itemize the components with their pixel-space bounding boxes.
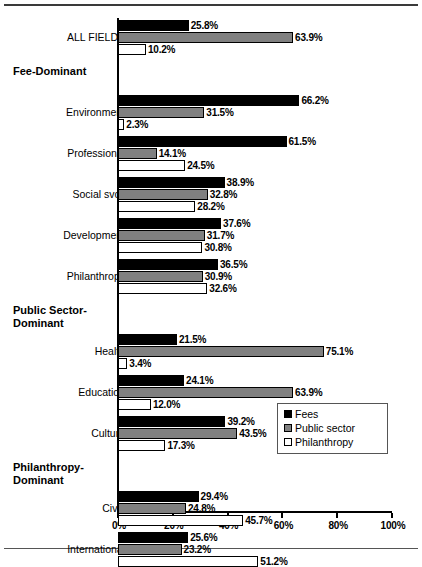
bar-value-label: 45.7%	[245, 515, 272, 526]
legend-swatch-fees-icon	[284, 410, 292, 418]
bar-public	[118, 230, 205, 241]
bar-value-label: 17.3%	[167, 440, 194, 451]
bar-public	[118, 107, 204, 118]
bar-public	[118, 148, 157, 159]
bar-value-label: 12.0%	[153, 399, 180, 410]
bar-fees	[118, 491, 199, 502]
chart-group: Civic29.4%24.8%45.7%	[0, 491, 422, 526]
bar-fees	[118, 375, 184, 386]
category-label: Development	[10, 229, 125, 241]
bar-value-label: 37.6%	[223, 218, 250, 229]
bar-philan	[118, 119, 124, 130]
bar-value-label: 28.2%	[197, 201, 224, 212]
bar-value-label: 14.1%	[159, 148, 186, 159]
bar-value-label: 66.2%	[301, 95, 328, 106]
chart-group: ALL FIELDS25.8%63.9%10.2%	[0, 20, 422, 55]
chart-group: Environment66.2%31.5%2.3%	[0, 95, 422, 130]
bar-value-label: 61.5%	[289, 136, 316, 147]
bar-value-label: 23.2%	[184, 544, 211, 555]
bar-public	[118, 189, 208, 200]
bar-philan	[118, 515, 243, 526]
bar-value-label: 25.8%	[191, 20, 218, 31]
bar-fees	[118, 218, 221, 229]
bar-value-label: 38.9%	[227, 177, 254, 188]
bar-value-label: 30.8%	[204, 242, 231, 253]
legend-swatch-philanthropy-icon	[284, 438, 292, 446]
bar-public	[118, 387, 293, 398]
legend-item-philanthropy: Philanthropy	[284, 435, 383, 449]
chart-group: Development37.6%31.7%30.8%	[0, 218, 422, 253]
bar-value-label: 10.2%	[148, 44, 175, 55]
bar-value-label: 30.9%	[205, 271, 232, 282]
bar-value-label: 24.1%	[186, 375, 213, 386]
bar-value-label: 63.9%	[295, 32, 322, 43]
legend-label-fees: Fees	[295, 407, 318, 421]
bar-value-label: 51.2%	[260, 556, 287, 567]
bar-public	[118, 32, 293, 43]
top-divider-rule	[4, 4, 418, 6]
legend-label-public-sector: Public sector	[295, 421, 355, 435]
bar-value-label: 25.6%	[190, 532, 217, 543]
category-label: Culture	[10, 427, 125, 439]
category-label: Civic	[10, 502, 125, 514]
chart-group: Professional61.5%14.1%24.5%	[0, 136, 422, 171]
bar-philan	[118, 399, 151, 410]
bar-public	[118, 346, 324, 357]
chart-group: Health21.5%75.1%3.4%	[0, 334, 422, 369]
category-label: Philanthropy	[10, 270, 125, 282]
bar-value-label: 75.1%	[326, 346, 353, 357]
bar-value-label: 31.5%	[206, 107, 233, 118]
bar-value-label: 32.8%	[210, 189, 237, 200]
category-label: Social svcs	[10, 188, 125, 200]
bar-public	[118, 503, 186, 514]
bar-value-label: 21.5%	[179, 334, 206, 345]
bar-value-label: 43.5%	[239, 428, 266, 439]
chart-group: Social svcs38.9%32.8%28.2%	[0, 177, 422, 212]
bar-fees	[118, 334, 177, 345]
category-label: Health	[10, 345, 125, 357]
bar-fees	[118, 416, 225, 427]
bar-fees	[118, 259, 218, 270]
category-label: Education	[10, 386, 125, 398]
bar-philan	[118, 556, 258, 567]
bar-public	[118, 271, 203, 282]
bar-philan	[118, 44, 146, 55]
bar-value-label: 24.8%	[188, 503, 215, 514]
bar-public	[118, 544, 182, 555]
bar-public	[118, 428, 237, 439]
chart-group: International25.6%23.2%51.2%	[0, 532, 422, 567]
section-header: Philanthropy- Dominant	[13, 461, 84, 487]
bar-fees	[118, 95, 299, 106]
bar-philan	[118, 283, 207, 294]
chart-group: Philanthropy36.5%30.9%32.6%	[0, 259, 422, 294]
category-label: International	[10, 543, 125, 555]
legend-item-fees: Fees	[284, 407, 383, 421]
category-label: Environment	[10, 106, 125, 118]
bar-philan	[118, 160, 185, 171]
legend-swatch-public-sector-icon	[284, 424, 292, 432]
section-header: Public Sector- Dominant	[13, 304, 87, 330]
bar-philan	[118, 201, 195, 212]
bar-value-label: 32.6%	[209, 283, 236, 294]
bar-value-label: 31.7%	[207, 230, 234, 241]
chart-legend: Fees Public sector Philanthropy	[277, 403, 388, 454]
category-label: ALL FIELDS	[10, 31, 125, 43]
section-header: Fee-Dominant	[13, 65, 86, 78]
bar-fees	[118, 177, 225, 188]
plot-area: 0%20%40%60%80%100% ALL FIELDS25.8%63.9%1…	[0, 16, 422, 516]
bar-value-label: 2.3%	[126, 119, 148, 130]
bar-fees	[118, 532, 188, 543]
bar-fees	[118, 136, 287, 147]
bar-philan	[118, 440, 165, 451]
legend-item-public-sector: Public sector	[284, 421, 383, 435]
bar-value-label: 39.2%	[227, 416, 254, 427]
bar-value-label: 24.5%	[187, 160, 214, 171]
bar-fees	[118, 20, 189, 31]
bar-value-label: 36.5%	[220, 259, 247, 270]
bar-philan	[118, 242, 202, 253]
bar-value-label: 63.9%	[295, 387, 322, 398]
bar-value-label: 29.4%	[201, 491, 228, 502]
bar-value-label: 3.4%	[129, 358, 151, 369]
legend-label-philanthropy: Philanthropy	[295, 435, 353, 449]
